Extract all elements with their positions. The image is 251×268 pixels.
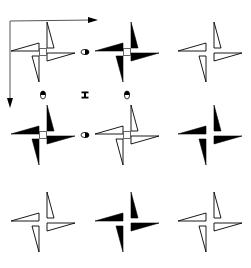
pinwheel-arm-bottom [116,56,123,82]
pinwheel-arm-left [95,126,123,134]
twofold-marker-icon [81,132,89,137]
pinwheel-r0-c2 [178,22,242,82]
pinwheel-arm-bottom [116,139,123,165]
pinwheel-arm-top [131,105,138,131]
fourfold-center-square-icon [124,49,131,56]
pinwheel-arm-right [214,53,242,61]
pinwheel-arm-bottom [32,226,39,252]
pinwheel-arm-bottom [199,56,206,82]
pinwheel-lattice [11,22,242,252]
pinwheel-arm-top [47,105,54,131]
pinwheel-arm-left [95,43,123,51]
pinwheel-arm-left [11,43,39,51]
pinwheel-r1-c2 [178,105,242,165]
twofold-marker-icon [124,91,129,99]
x-axis-line [10,20,92,21]
pinwheel-arm-top [47,192,54,218]
pinwheel-r1-c0 [11,105,75,165]
pinwheel-arm-bottom [199,226,206,252]
pinwheel-arm-left [178,126,206,134]
pinwheel-arm-bottom [32,56,39,82]
pinwheel-arm-top [214,192,221,218]
center-ibeam-marker-icon [82,92,89,99]
symmetry-diagram [0,0,251,268]
pinwheel-arm-left [178,43,206,51]
pinwheel-r0-c1 [95,22,159,82]
pinwheel-r2-c1 [95,192,159,252]
fourfold-center-square-icon [124,132,131,139]
pinwheel-arm-right [131,53,159,61]
pinwheel-arm-top [131,22,138,48]
pinwheel-arm-right [131,223,159,231]
diagram-canvas [0,0,251,268]
pinwheel-arm-right [47,223,75,231]
pinwheel-arm-top [131,192,138,218]
pinwheel-arm-top [214,105,221,131]
pinwheel-arm-right [47,53,75,61]
pinwheel-arm-right [214,136,242,144]
symmetry-markers [40,49,129,137]
fourfold-center-square-icon [40,49,47,56]
twofold-marker-icon [81,49,89,54]
pinwheel-arm-bottom [199,139,206,165]
pinwheel-r2-c0 [11,192,75,252]
pinwheel-r2-c2 [178,192,242,252]
pinwheel-arm-left [95,213,123,221]
pinwheel-arm-right [214,223,242,231]
pinwheel-arm-top [214,22,221,48]
x-axis-arrow-icon [88,17,98,23]
pinwheel-r0-c0 [11,22,75,82]
y-axis-arrow-icon [7,98,13,108]
fourfold-center-square-icon [40,132,47,139]
pinwheel-arm-right [131,136,159,144]
pinwheel-arm-bottom [116,226,123,252]
twofold-marker-icon [40,91,45,99]
pinwheel-arm-right [47,136,75,144]
pinwheel-r1-c1 [95,105,159,165]
pinwheel-arm-left [11,126,39,134]
pinwheel-arm-left [11,213,39,221]
pinwheel-arm-top [47,22,54,48]
pinwheel-arm-left [178,213,206,221]
pinwheel-arm-bottom [32,139,39,165]
